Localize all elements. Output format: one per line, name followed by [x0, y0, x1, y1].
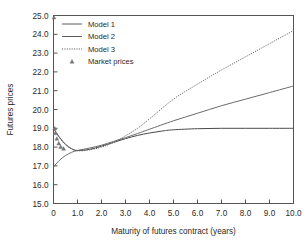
x-axis-title: Maturity of futures contract (years) — [111, 227, 236, 236]
x-tick-label: 9.0 — [264, 209, 276, 218]
plot-frame — [54, 16, 294, 204]
x-tick-label: 4.0 — [144, 209, 156, 218]
legend-label-4: Market prices — [88, 57, 134, 66]
x-tick-label: 2.0 — [96, 209, 108, 218]
y-tick-label: 20.0 — [33, 106, 49, 115]
y-tick-label: 25.0 — [33, 12, 49, 21]
series-line-1 — [54, 128, 294, 150]
y-tick-label: 15.0 — [33, 200, 49, 209]
market-price-marker — [59, 145, 63, 149]
market-price-marker — [55, 137, 59, 141]
x-tick-label: 6.0 — [192, 209, 204, 218]
y-axis-title: Futures prices — [6, 84, 15, 136]
y-tick-label: 17.0 — [33, 162, 49, 171]
legend-marker-symbol — [70, 59, 74, 63]
x-tick-label: 0 — [51, 209, 56, 218]
x-tick-label: 7.0 — [216, 209, 228, 218]
futures-prices-chart: 15.016.017.018.019.020.021.022.023.024.0… — [0, 0, 307, 241]
y-tick-label: 19.0 — [33, 124, 49, 133]
x-tick-label: 3.0 — [120, 209, 132, 218]
market-price-marker — [57, 141, 61, 145]
legend-label-2: Model 2 — [88, 32, 115, 41]
x-tick-label: 1.0 — [72, 209, 84, 218]
x-tick-label: 8.0 — [240, 209, 252, 218]
y-tick-label: 21.0 — [33, 87, 49, 96]
chart-canvas: 15.016.017.018.019.020.021.022.023.024.0… — [0, 0, 307, 241]
legend-label-3: Model 3 — [88, 45, 115, 54]
legend-label-1: Model 1 — [88, 20, 115, 29]
y-tick-label: 24.0 — [33, 30, 49, 39]
y-tick-label: 18.0 — [33, 143, 49, 152]
y-tick-label: 23.0 — [33, 49, 49, 58]
x-tick-label: 10.0 — [286, 209, 302, 218]
y-tick-label: 16.0 — [33, 181, 49, 190]
x-tick-label: 5.0 — [168, 209, 180, 218]
series-line-2 — [54, 86, 294, 167]
y-tick-label: 22.0 — [33, 68, 49, 77]
